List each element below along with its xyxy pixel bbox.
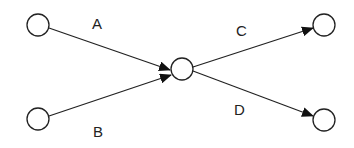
node-bottom-left bbox=[27, 108, 49, 130]
edge-c bbox=[193, 28, 313, 67]
node-center bbox=[171, 58, 193, 80]
edge-label-c: C bbox=[236, 22, 247, 39]
node-top-left bbox=[27, 14, 49, 36]
edge-label-d: D bbox=[234, 101, 245, 118]
edge-label-a: A bbox=[92, 15, 102, 32]
edge-d bbox=[193, 71, 313, 116]
edge-b bbox=[49, 75, 171, 116]
node-bottom-right bbox=[313, 109, 335, 131]
graph-diagram: A B C D bbox=[0, 0, 354, 148]
node-top-right bbox=[313, 14, 335, 36]
edge-a bbox=[49, 28, 170, 70]
edge-label-b: B bbox=[93, 123, 103, 140]
